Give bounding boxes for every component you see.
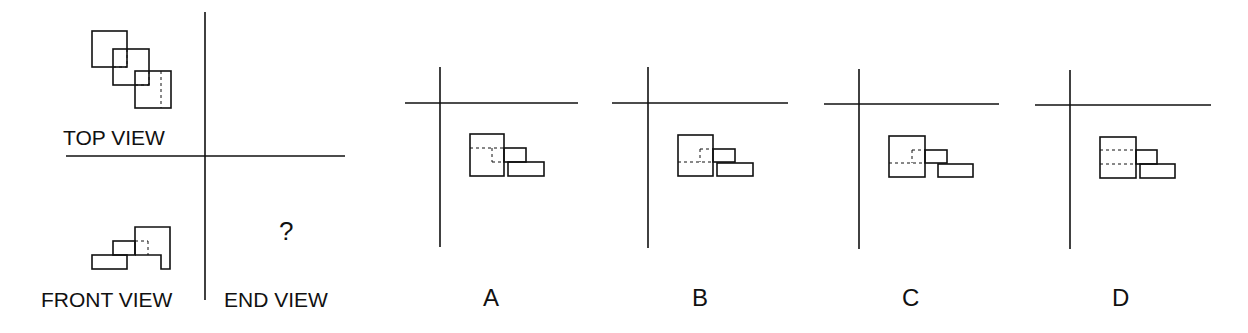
option-b-label[interactable]: B xyxy=(692,286,708,310)
option-c-label[interactable]: C xyxy=(902,286,919,310)
option-b-drawing xyxy=(612,67,788,248)
unknown-end-view-mark: ? xyxy=(279,218,293,244)
top-view-label: TOP VIEW xyxy=(63,127,165,148)
option-c-drawing xyxy=(824,69,999,249)
option-a-drawing xyxy=(405,67,578,247)
end-view-label: END VIEW xyxy=(224,289,328,310)
front-view-drawing xyxy=(92,227,170,269)
option-a-label[interactable]: A xyxy=(483,286,499,310)
orthographic-diagram xyxy=(0,0,1248,333)
front-view-label: FRONT VIEW xyxy=(41,289,172,310)
top-view-drawing xyxy=(92,31,171,108)
option-d-label[interactable]: D xyxy=(1112,286,1129,310)
option-d-drawing xyxy=(1035,70,1211,249)
